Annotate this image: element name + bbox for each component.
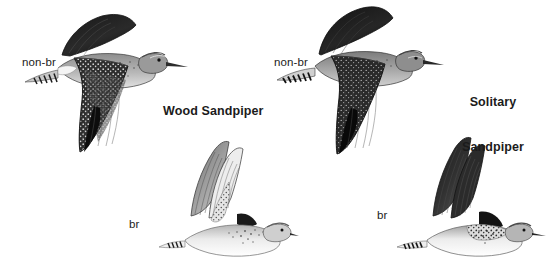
bird-solitary-sandpiper-nonbreeding xyxy=(275,4,445,154)
label-species-solitary-line2: Sandpiper xyxy=(462,140,524,155)
illustration-plate: non-br Wood Sandpiper br non-br Solitary… xyxy=(0,0,551,277)
label-species-solitary-sandpiper: Solitary Sandpiper xyxy=(462,64,524,186)
label-species-solitary-line1: Solitary xyxy=(462,95,524,110)
label-solitary-sandpiper-breeding: br xyxy=(377,208,387,222)
label-wood-sandpiper-breeding: br xyxy=(129,217,139,231)
bird-wood-sandpiper-breeding xyxy=(155,136,300,268)
bird-wood-sandpiper-nonbreeding xyxy=(22,8,192,153)
label-species-wood-sandpiper: Wood Sandpiper xyxy=(163,104,263,119)
label-solitary-sandpiper-nonbreeding: non-br xyxy=(274,55,308,69)
label-wood-sandpiper-nonbreeding: non-br xyxy=(22,55,56,69)
